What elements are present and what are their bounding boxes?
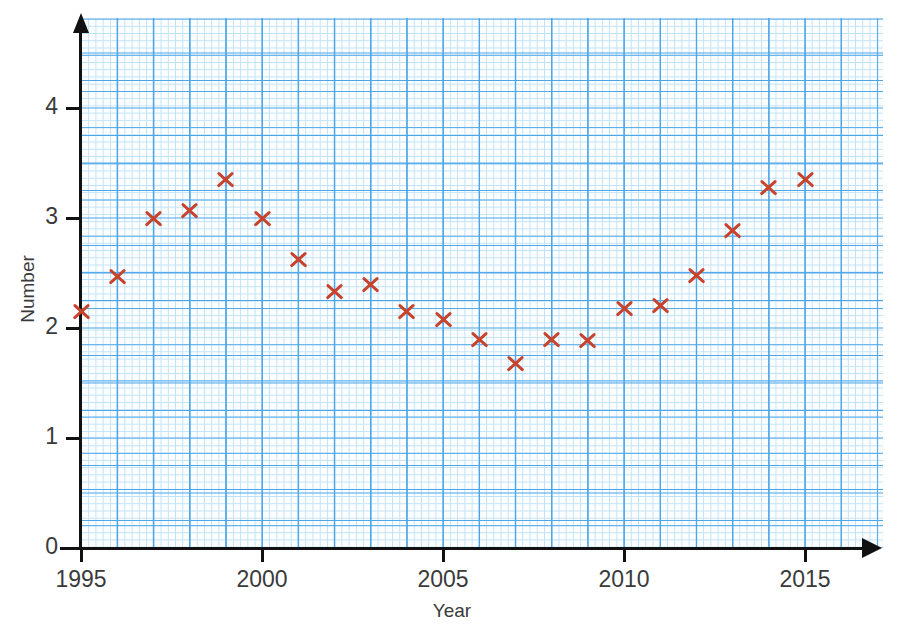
y-tick-3: [66, 217, 80, 220]
graph-paper-grid: [81, 18, 883, 548]
chart-canvas: 01234 19952000200520102015 Number Year: [0, 0, 904, 632]
x-tick-label-2015: 2015: [760, 566, 850, 593]
x-axis-line: [60, 547, 872, 550]
y-tick-2: [66, 327, 80, 330]
x-tick-1995: [80, 548, 83, 562]
grid-major-lines: [81, 18, 883, 548]
x-tick-2000: [261, 548, 264, 562]
x-tick-label-2000: 2000: [217, 566, 307, 593]
y-tick-1: [66, 437, 80, 440]
y-tick-0: [66, 547, 80, 550]
y-tick-label-0: 0: [18, 533, 58, 560]
x-axis-arrow-icon: [862, 538, 882, 558]
x-tick-2015: [804, 548, 807, 562]
x-tick-2005: [442, 548, 445, 562]
y-axis-title: Number: [17, 229, 39, 349]
x-tick-2010: [623, 548, 626, 562]
x-tick-label-2010: 2010: [579, 566, 669, 593]
y-tick-label-1: 1: [18, 423, 58, 450]
x-axis-title: Year: [407, 600, 497, 622]
x-tick-label-2005: 2005: [398, 566, 488, 593]
y-tick-label-4: 4: [18, 93, 58, 120]
x-tick-label-1995: 1995: [36, 566, 126, 593]
y-tick-label-3: 3: [18, 203, 58, 230]
y-axis-arrow-icon: [73, 13, 89, 33]
y-tick-4: [66, 107, 80, 110]
